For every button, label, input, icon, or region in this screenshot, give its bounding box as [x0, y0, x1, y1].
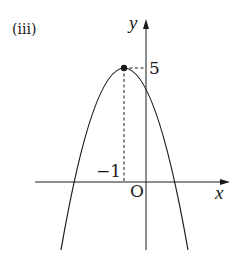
panel-label: (iii) — [12, 22, 36, 36]
y-axis-label: y — [129, 13, 137, 32]
vertex-y-value-label: 5 — [149, 60, 160, 77]
parabola-figure: (iii) y x O 5 −1 — [0, 0, 243, 271]
vertex-point — [121, 65, 127, 71]
origin-label: O — [130, 183, 144, 200]
graph-canvas — [0, 0, 243, 271]
vertex-x-value-label: −1 — [96, 163, 121, 180]
x-axis-label: x — [215, 183, 223, 202]
y-axis-arrow-icon — [143, 19, 149, 29]
